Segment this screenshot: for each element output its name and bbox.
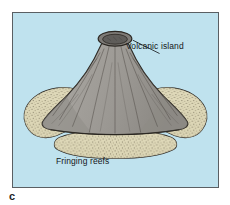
figure-panel: Volcanic island Fringing reefs [12,12,219,188]
label-volcanic-island: Volcanic island [126,42,184,51]
label-fringing-reefs: Fringing reefs [56,157,109,166]
volcanic-island-diagram [13,13,218,187]
panel-letter: c [9,191,15,202]
volcanic-island-shape [42,37,188,135]
